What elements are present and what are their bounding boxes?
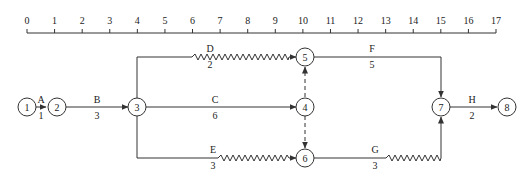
svg-text:8: 8	[505, 102, 510, 113]
network-diagram: 01234567891011121314151617 A 1 B 3 C 6 D…	[0, 0, 531, 179]
tick-label: 15	[436, 15, 446, 26]
tick-label: 8	[245, 15, 250, 26]
svg-text:7: 7	[439, 102, 444, 113]
node-2: 2	[48, 98, 66, 116]
activity-b-name: B	[94, 94, 101, 105]
node-5: 5	[296, 48, 314, 66]
tick-label: 7	[218, 15, 223, 26]
activity-f-arrow	[314, 57, 441, 97]
tick-label: 5	[162, 15, 167, 26]
tick-label: 1	[52, 15, 57, 26]
tick-label: 14	[408, 15, 418, 26]
svg-text:5: 5	[303, 52, 308, 63]
node-3: 3	[128, 98, 146, 116]
activity-f-name: F	[369, 43, 375, 54]
tick-label: 16	[463, 15, 473, 26]
activity-a-name: A	[37, 94, 45, 105]
activity-e-name: E	[210, 144, 216, 155]
node-7: 7	[432, 98, 450, 116]
activity-f-duration: 5	[370, 59, 375, 70]
tick-label: 10	[298, 15, 308, 26]
time-axis: 01234567891011121314151617	[25, 15, 502, 33]
activities: A 1 B 3 C 6 D 2 E 3 F 5 G 3 H 2	[36, 43, 497, 171]
activity-h-duration: 2	[470, 110, 475, 121]
node-6: 6	[296, 149, 314, 167]
tick-label: 11	[326, 15, 336, 26]
activity-g-duration: 3	[373, 160, 378, 171]
activity-d-duration: 2	[208, 59, 213, 70]
activity-a-duration: 1	[39, 110, 44, 121]
node-8: 8	[498, 98, 516, 116]
activity-g-free-float-wave	[386, 155, 441, 161]
activity-e-free-float-wave	[218, 155, 289, 161]
activity-c-duration: 6	[213, 110, 218, 121]
tick-label: 6	[190, 15, 195, 26]
node-1: 1	[18, 98, 36, 116]
tick-label: 2	[80, 15, 85, 26]
tick-label: 3	[107, 15, 112, 26]
activity-e-line	[137, 116, 218, 158]
tick-label: 9	[273, 15, 278, 26]
svg-text:1: 1	[25, 102, 30, 113]
activity-g-name: G	[371, 144, 378, 155]
activity-d-name: D	[206, 43, 213, 54]
svg-text:2: 2	[55, 102, 60, 113]
node-4: 4	[296, 98, 314, 116]
svg-text:4: 4	[303, 102, 308, 113]
tick-label: 4	[135, 15, 140, 26]
activity-e-duration: 3	[211, 160, 216, 171]
svg-text:6: 6	[303, 153, 308, 164]
tick-label: 17	[491, 15, 501, 26]
svg-text:3: 3	[135, 102, 140, 113]
tick-label: 0	[25, 15, 30, 26]
activity-h-name: H	[468, 94, 475, 105]
time-axis-ticks: 01234567891011121314151617	[25, 15, 502, 33]
activity-b-duration: 3	[95, 110, 100, 121]
activity-c-name: C	[212, 94, 219, 105]
activity-d-line	[137, 57, 192, 98]
tick-label: 13	[381, 15, 391, 26]
tick-label: 12	[353, 15, 363, 26]
